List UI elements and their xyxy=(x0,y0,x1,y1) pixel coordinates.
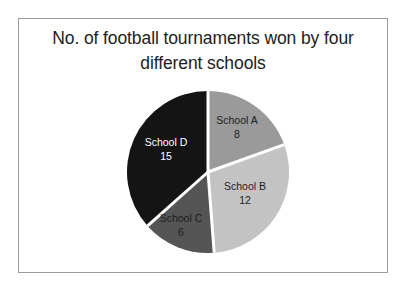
figure-root: No. of football tournaments won by four … xyxy=(0,0,408,288)
pie-chart: School A 8 School B 12 School C 6 School… xyxy=(126,90,290,254)
pie-svg xyxy=(126,90,290,254)
chart-title: No. of football tournaments won by four … xyxy=(30,26,376,76)
